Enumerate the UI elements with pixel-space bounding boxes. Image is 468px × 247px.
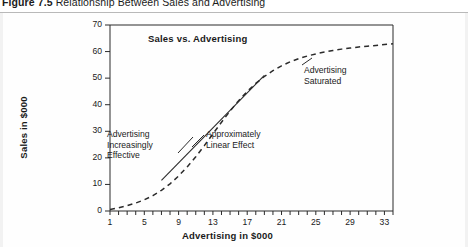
annotation-line: Advertising	[304, 65, 347, 76]
annotation-line: Effective	[107, 150, 153, 161]
x-tick-label-13: 13	[201, 217, 225, 227]
figure-number: Figure 7.5	[2, 0, 53, 8]
sales-vs-advertising-chart: Sales vs. Advertising Advertising in $00…	[0, 13, 468, 247]
x-axis-minor-ticks	[110, 211, 393, 215]
x-tick-label-5: 5	[132, 217, 156, 227]
annotation-line: Advertising	[107, 129, 153, 140]
annotation-line: Approximately	[206, 129, 260, 140]
x-tick-label-33: 33	[372, 217, 396, 227]
y-axis-ticks	[105, 25, 110, 211]
y-tick-label-30: 30	[80, 125, 102, 135]
y-tick-label-20: 20	[80, 152, 102, 162]
annotation-line: Linear Effect	[206, 140, 260, 151]
series-approximately-linear-segment	[161, 75, 264, 180]
x-tick-label-25: 25	[304, 217, 328, 227]
y-tick-label-40: 40	[80, 99, 102, 109]
figure-caption-text: Figure 7.5 Relationship Between Sales an…	[2, 0, 265, 8]
x-tick-label-21: 21	[270, 217, 294, 227]
annotation-line: Increasingly	[107, 140, 153, 151]
x-tick-label-9: 9	[167, 217, 191, 227]
x-tick-label-29: 29	[338, 217, 362, 227]
y-axis-title: Sales in $000	[18, 83, 29, 173]
leader-saturated	[302, 58, 312, 65]
plot-frame	[110, 25, 393, 211]
series-sales-response-curve	[110, 44, 393, 210]
chart-title: Sales vs. Advertising	[148, 33, 247, 44]
annotation-advertising-saturated: Advertising Saturated	[304, 65, 347, 86]
x-tick-label-17: 17	[235, 217, 259, 227]
annotation-approximately-linear-effect: Approximately Linear Effect	[206, 129, 260, 150]
x-axis-title: Advertising in $000	[182, 230, 273, 241]
annotation-line: Saturated	[304, 76, 347, 87]
y-tick-label-60: 60	[80, 46, 102, 56]
y-tick-label-0: 0	[80, 205, 102, 215]
leader-linear	[192, 135, 204, 147]
y-tick-label-70: 70	[80, 19, 102, 29]
x-tick-label-1: 1	[98, 217, 122, 227]
figure-caption-title: Relationship Between Sales and Advertisi…	[56, 0, 266, 8]
figure-body: Sales vs. Advertising Advertising in $00…	[0, 13, 468, 247]
y-tick-label-10: 10	[80, 178, 102, 188]
annotation-advertising-increasingly-effective: Advertising Increasingly Effective	[107, 129, 153, 161]
y-tick-label-50: 50	[80, 72, 102, 82]
